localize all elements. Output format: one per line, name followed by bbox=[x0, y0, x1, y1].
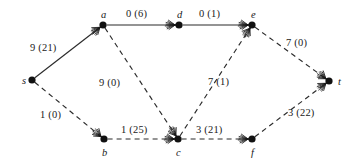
edge-e-t bbox=[255, 27, 326, 79]
edge-label-c-e: 7 (1) bbox=[208, 77, 229, 88]
node-label-b: b bbox=[102, 148, 107, 159]
arrowhead-f-t bbox=[317, 83, 326, 91]
arrowhead-a-c bbox=[168, 127, 176, 136]
node-label-f: f bbox=[251, 148, 254, 159]
edge-label-a-d: 0 (6) bbox=[126, 9, 147, 20]
arrowhead-s-a bbox=[91, 27, 100, 35]
graph-canvas bbox=[0, 0, 359, 168]
arrowhead-c-e bbox=[242, 28, 250, 37]
edge-label-a-c: 9 (0) bbox=[99, 78, 120, 89]
arrowhead-e-t bbox=[317, 71, 326, 79]
edge-label-e-t: 7 (0) bbox=[286, 38, 307, 49]
arrowhead-s-b bbox=[92, 129, 101, 137]
edge-label-s-b: 1 (0) bbox=[40, 110, 61, 121]
edge-label-d-e: 0 (1) bbox=[199, 9, 220, 20]
node-label-t: t bbox=[338, 77, 341, 88]
edge-label-b-c: 1 (25) bbox=[121, 125, 148, 136]
edge-label-s-a: 9 (21) bbox=[30, 43, 57, 54]
node-e bbox=[248, 21, 255, 28]
node-c bbox=[174, 135, 181, 142]
node-label-d: d bbox=[177, 10, 182, 21]
node-b bbox=[100, 135, 107, 142]
node-label-s: s bbox=[22, 76, 26, 87]
node-a bbox=[99, 21, 106, 28]
edges-layer bbox=[35, 25, 326, 139]
node-label-e: e bbox=[251, 10, 256, 21]
edge-label-c-f: 3 (21) bbox=[196, 125, 223, 136]
node-label-a: a bbox=[101, 10, 106, 21]
node-d bbox=[175, 21, 182, 28]
flow-network-figure: 9 (21)0 (6)0 (1)1 (0)9 (0)1 (25)7 (1)3 (… bbox=[0, 0, 359, 168]
node-f bbox=[248, 135, 255, 142]
node-s bbox=[28, 76, 35, 83]
edge-label-f-t: 3 (22) bbox=[288, 108, 315, 119]
node-label-c: c bbox=[176, 148, 181, 159]
node-t bbox=[325, 77, 332, 84]
